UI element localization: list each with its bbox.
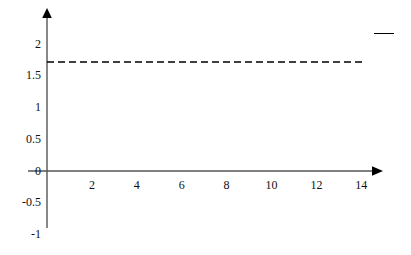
x-tick-label: 8 [224,178,230,193]
asymptote-label [371,32,397,35]
sine-cosine-integral-plot: 2468101214-1-0.500.511.52 [0,0,411,255]
plot-canvas [0,0,411,255]
y-tick-label: -0.5 [22,195,41,210]
y-tick-label: 0.5 [26,132,41,147]
y-tick-label: -1 [31,227,41,242]
x-tick-label: 4 [134,178,140,193]
y-tick-label: 1 [35,100,41,115]
y-tick-label: 2 [35,37,41,52]
x-tick-label: 6 [179,178,185,193]
y-axis-arrowhead [42,8,52,18]
y-tick-label: 0 [35,164,41,179]
x-tick-label: 14 [355,178,367,193]
y-axis [42,8,52,228]
x-axis [28,166,383,176]
x-tick-label: 12 [310,178,322,193]
y-tick-label: 1.5 [26,68,41,83]
x-tick-label: 2 [89,178,95,193]
x-tick-label: 10 [266,178,278,193]
asymptote-denominator [371,34,397,35]
x-axis-arrowhead [372,166,383,176]
